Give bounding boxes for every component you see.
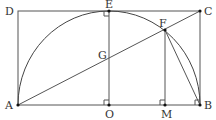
point-o <box>107 103 110 106</box>
label-d: D <box>5 5 14 18</box>
point-b <box>198 103 201 106</box>
geometry-diagram: D A B C E F G O M <box>0 0 216 120</box>
label-f: F <box>159 17 167 30</box>
label-o: O <box>105 108 114 120</box>
point-a <box>16 103 19 106</box>
segment-fb <box>165 30 200 105</box>
label-a: A <box>4 99 14 112</box>
point-m <box>163 103 166 106</box>
label-e: E <box>105 0 113 11</box>
label-c: C <box>204 5 212 18</box>
point-c <box>198 9 201 12</box>
label-m: M <box>161 108 172 120</box>
label-g: G <box>98 49 107 62</box>
label-b: B <box>204 99 212 112</box>
